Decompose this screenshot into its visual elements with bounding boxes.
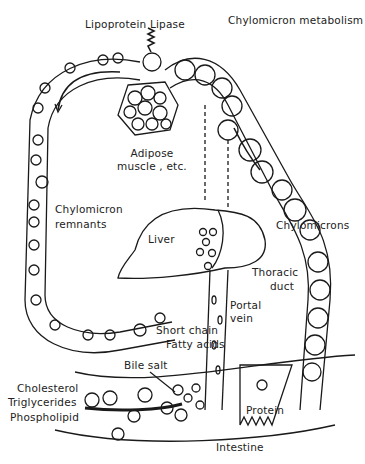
label-triglycerides: Triglycerides bbox=[8, 396, 77, 408]
micelle-particles bbox=[85, 384, 204, 440]
label-portal: Portal bbox=[230, 299, 261, 311]
label-short-chain: Short chain bbox=[156, 324, 218, 336]
flow-arrow-chylomicron bbox=[234, 128, 260, 170]
remnant-particles bbox=[29, 53, 165, 340]
label-thoracic: Thoracic bbox=[252, 266, 298, 278]
adipose-cell-cluster bbox=[118, 82, 178, 135]
label-vein: vein bbox=[230, 312, 253, 324]
label-liver: Liver bbox=[148, 233, 175, 245]
label-protein: Protein bbox=[246, 404, 284, 416]
label-chylomicron-remnants-2: remnants bbox=[55, 218, 107, 230]
label-adipose: Adipose bbox=[117, 147, 187, 159]
label-phospholipid: Phospholipid bbox=[10, 411, 79, 423]
lipase-particle bbox=[143, 53, 161, 71]
liver-shape bbox=[118, 208, 265, 278]
label-cholesterol: Cholesterol bbox=[17, 382, 78, 394]
label-lipoprotein-lipase: Lipoprotein Lipase bbox=[85, 18, 185, 30]
label-duct: duct bbox=[270, 280, 294, 292]
lipoprotein-lipase-icon bbox=[148, 28, 154, 52]
intestinal-villus bbox=[240, 365, 292, 425]
absorption-arrow bbox=[85, 404, 182, 410]
chylomicron-vessel bbox=[165, 58, 331, 410]
label-adipose-muscle: muscle , etc. bbox=[112, 160, 192, 172]
chylomicron-metabolism-diagram: Chylomicron metabolism Lipoprotein Lipas… bbox=[0, 0, 365, 464]
label-chylomicrons: Chylomicrons bbox=[276, 219, 350, 231]
diagram-drawing bbox=[0, 0, 365, 464]
label-fatty-acids: Fatty acids bbox=[166, 338, 225, 350]
label-intestine: Intestine bbox=[216, 441, 264, 453]
diagram-title: Chylomicron metabolism bbox=[228, 14, 363, 26]
label-bile-salt: Bile salt bbox=[124, 359, 168, 371]
label-chylomicron-remnants-1: Chylomicron bbox=[55, 203, 123, 215]
bile-salt-pointer bbox=[150, 372, 175, 392]
